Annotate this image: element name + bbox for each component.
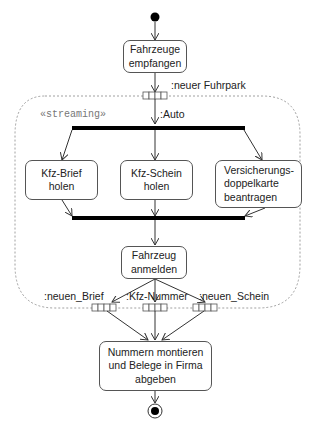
output-pin-kfz-nummer (143, 304, 167, 311)
region-stereotype-streaming: «streaming» (40, 110, 106, 120)
output-pin-neuen-schein (193, 304, 217, 311)
activity-final-node (148, 404, 162, 418)
initial-node (151, 13, 160, 22)
pin-label-neuer-fuhrpark: :neuer Fuhrpark (171, 80, 246, 91)
action-fahrzeug-anmelden[interactable]: Fahrzeug anmelden (121, 246, 187, 279)
action-kfz-schein-holen[interactable]: Kfz-Schein holen (120, 160, 193, 200)
pin-label-kfz-nummer: :Kfz-Nummer (126, 291, 188, 302)
action-versicherungsdoppelkarte-beantragen[interactable]: Versicherungs- doppelkarte beantragen (215, 160, 302, 208)
action-kfz-brief-holen[interactable]: Kfz-Brief holen (25, 160, 98, 200)
join-bar (72, 216, 245, 220)
action-label: Fahrzeuge empfangen (129, 43, 182, 69)
action-label: Kfz-Brief holen (41, 167, 81, 193)
pin-label-neuen-brief: :neuen_Brief (44, 291, 104, 302)
input-pin-neuer-fuhrpark (143, 92, 167, 99)
fork-bar (72, 126, 245, 130)
action-label: Kfz-Schein holen (131, 167, 182, 193)
action-fahrzeuge-empfangen[interactable]: Fahrzeuge empfangen (123, 40, 187, 73)
action-label: Versicherungs- doppelkarte beantragen (224, 164, 294, 203)
action-nummern-montieren[interactable]: Nummern montieren und Belege in Firma ab… (99, 341, 212, 391)
action-label: Fahrzeug anmelden (131, 249, 177, 275)
pin-label-neuen-schein: :neuen_Schein (199, 291, 269, 302)
action-label: Nummern montieren und Belege in Firma ab… (108, 346, 204, 385)
output-pin-neuen-brief (92, 304, 116, 311)
pin-label-auto: :Auto (160, 109, 185, 120)
